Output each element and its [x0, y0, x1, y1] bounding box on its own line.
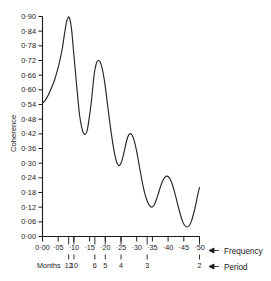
x-axis-ticks: 0·00·05·10·15·20·25·30·35·40·45·50 — [35, 237, 204, 253]
period-axis-legend: Period — [209, 263, 248, 272]
y-tick-label: 0·48 — [21, 115, 36, 124]
period-tick-label: 5 — [103, 261, 107, 270]
left-arrow-icon — [209, 248, 214, 253]
y-axis-title: Coherence — [9, 115, 18, 152]
x-tick-label: ·30 — [132, 243, 142, 252]
period-tick-label: 3 — [145, 261, 149, 270]
period-tick-label: 6 — [93, 261, 97, 270]
left-arrow-icon-2 — [209, 264, 214, 269]
x-tick-label: ·40 — [163, 243, 173, 252]
x-tick-label: ·15 — [84, 243, 94, 252]
period-tick-label: 10 — [70, 261, 78, 270]
chart-figure: 0·900·840·780·720·660·600·540·480·420·36… — [0, 0, 271, 281]
months-label: Months — [37, 261, 61, 270]
y-tick-label: 0·90 — [21, 12, 36, 21]
coherence-line-chart: 0·900·840·780·720·660·600·540·480·420·36… — [0, 0, 271, 281]
y-tick-label: 0·72 — [21, 56, 36, 65]
y-tick-label: 0·00 — [21, 232, 36, 241]
x-tick-label: 0·00 — [35, 243, 49, 252]
y-tick-label: 0·12 — [21, 203, 36, 212]
y-tick-label: 0·18 — [21, 188, 36, 197]
y-tick-label: 0·36 — [21, 144, 36, 153]
y-tick-label: 0·30 — [21, 159, 36, 168]
frequency-axis-legend: Frequency — [209, 247, 264, 256]
y-tick-label: 0·54 — [21, 100, 36, 109]
y-tick-label: 0·06 — [21, 217, 36, 226]
y-axis-ticks: 0·900·840·780·720·660·600·540·480·420·36… — [21, 12, 42, 241]
y-tick-label: 0·24 — [21, 173, 36, 182]
period-tick-label: 2 — [198, 261, 202, 270]
x-tick-label: ·35 — [147, 243, 157, 252]
period-tick-label: 4 — [119, 261, 123, 270]
y-tick-label: 0·78 — [21, 41, 36, 50]
y-tick-label: 0·60 — [21, 85, 36, 94]
y-tick-label: 0·66 — [21, 71, 36, 80]
frequency-axis-title: Frequency — [224, 247, 264, 256]
period-axis-title: Period — [224, 263, 248, 272]
period-axis-ticks: 121065432 — [65, 237, 202, 271]
coherence-curve — [43, 17, 200, 227]
y-tick-label: 0·42 — [21, 129, 36, 138]
x-tick-label: ·05 — [53, 243, 63, 252]
x-tick-label: ·45 — [179, 243, 189, 252]
y-tick-label: 0·84 — [21, 27, 36, 36]
